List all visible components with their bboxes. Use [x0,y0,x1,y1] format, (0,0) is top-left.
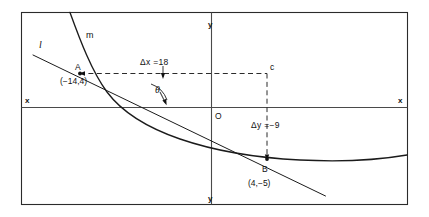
point-a-dot [78,72,82,76]
delta-x-pointer-arrowhead [161,73,165,79]
curve-m-label: m [86,30,94,40]
point-a-label: A [75,62,81,72]
x-axis-left-label: x [25,96,30,105]
figure-border [22,13,408,205]
y-axis-top-label: y [208,20,213,29]
origin-label: O [215,111,222,121]
line-l-label: l [39,39,42,50]
point-a-coords: (−14,4) [60,76,87,86]
point-c-label: c [270,62,275,72]
theta-pointer-arrowhead [162,99,166,106]
delta-x-label: Δx =18 [140,57,169,67]
theta-label: θ [155,84,160,95]
x-axis-right-label: x [398,96,403,105]
diagram-svg: x x y y O l m A (−14,4) B (4,−5) c Δx =1… [0,0,429,217]
point-b-label: B [262,164,268,174]
curve-m [70,13,407,161]
delta-y-label: Δy =−9 [251,120,280,130]
y-axis-bottom-label: y [208,194,213,203]
point-b-coords: (4,−5) [248,178,271,188]
figure-root: x x y y O l m A (−14,4) B (4,−5) c Δx =1… [0,0,429,217]
point-b-dot [265,157,269,161]
